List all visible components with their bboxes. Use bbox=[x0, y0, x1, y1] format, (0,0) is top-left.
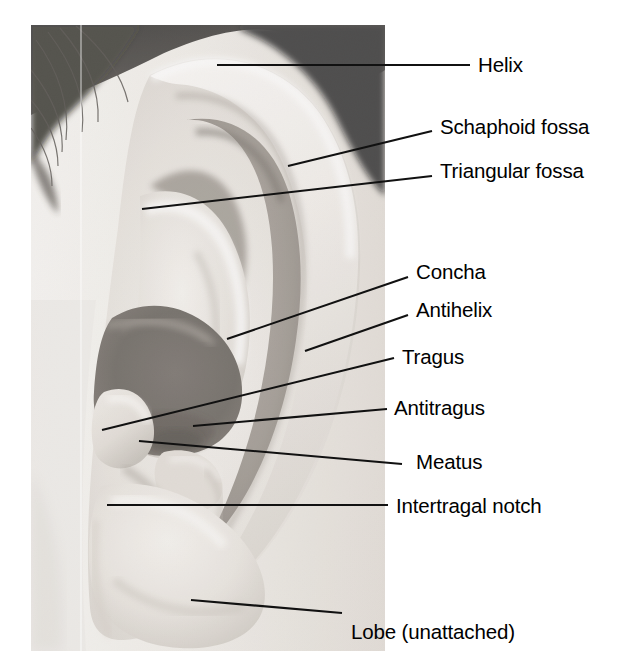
label-tragus: Tragus bbox=[402, 347, 464, 368]
leader-line-lobe-unattached bbox=[191, 600, 342, 613]
ear-anatomy-figure: HelixSchaphoid fossaTriangular fossaConc… bbox=[0, 0, 632, 661]
leader-line-triangular-fossa bbox=[142, 176, 432, 209]
label-lobe-unattached: Lobe (unattached) bbox=[351, 622, 515, 643]
label-helix: Helix bbox=[478, 55, 523, 76]
leader-line-schaphoid-fossa bbox=[288, 131, 432, 166]
leader-line-tragus bbox=[102, 358, 394, 430]
label-intertragal-notch: Intertragal notch bbox=[396, 496, 542, 517]
label-meatus: Meatus bbox=[416, 452, 482, 473]
leader-line-concha bbox=[227, 277, 408, 339]
leader-line-meatus bbox=[139, 441, 402, 464]
leader-line-antitragus bbox=[193, 409, 387, 426]
leader-lines bbox=[0, 0, 632, 661]
leader-line-antihelix bbox=[305, 315, 408, 351]
label-concha: Concha bbox=[416, 262, 486, 283]
label-antitragus: Antitragus bbox=[394, 398, 485, 419]
label-triangular-fossa: Triangular fossa bbox=[440, 161, 584, 182]
label-schaphoid-fossa: Schaphoid fossa bbox=[440, 117, 589, 138]
label-antihelix: Antihelix bbox=[416, 300, 492, 321]
